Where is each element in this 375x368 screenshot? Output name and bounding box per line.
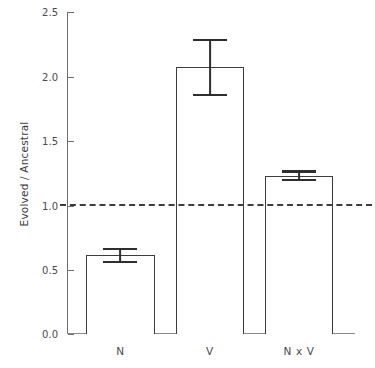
error-bar-nxv (282, 170, 316, 180)
reference-line-1 (60, 204, 372, 206)
y-tick-mark-4 (68, 77, 74, 78)
bar-nxv (265, 176, 333, 334)
y-tick-mark-3 (68, 141, 74, 142)
y-tick-label-3: 1.5 (26, 136, 58, 147)
x-label-nxv: N x V (265, 345, 333, 357)
y-tick-label-2: 1.0 (26, 201, 58, 212)
y-tick-label-0: 0.0 (26, 329, 58, 340)
error-bar-n (103, 248, 137, 263)
error-bar-cap-bottom (282, 179, 316, 181)
y-tick-label-4: 2.0 (26, 72, 58, 83)
y-tick-label-group: 0.0 0.5 1.0 1.5 2.0 2.5 (22, 0, 58, 368)
bar-n (86, 255, 155, 334)
error-bar-stem (209, 39, 211, 96)
y-tick-mark-5 (68, 12, 74, 13)
error-bar-v (193, 39, 227, 96)
y-tick-mark-1 (68, 270, 74, 271)
y-tick-label-5: 2.5 (26, 7, 58, 18)
x-label-v: V (176, 345, 244, 357)
error-bar-cap-bottom (103, 261, 137, 263)
error-bar-cap-top (282, 170, 316, 172)
x-label-n: N (86, 345, 155, 357)
y-tick-mark-0 (68, 334, 74, 335)
error-bar-cap-top (103, 248, 137, 250)
bar-chart: Evolved / Ancestral 0.0 0.5 1.0 1.5 2.0 … (0, 0, 375, 368)
error-bar-cap-top (193, 39, 227, 41)
error-bar-cap-bottom (193, 94, 227, 96)
bar-v (176, 67, 244, 334)
y-axis-line (67, 12, 68, 334)
y-tick-label-1: 0.5 (26, 265, 58, 276)
